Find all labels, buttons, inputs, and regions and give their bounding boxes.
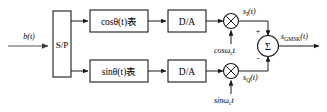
wire-si-to-summer (239, 21, 269, 36)
wire-sq-to-summer (239, 57, 269, 72)
sin-theta-table-block: sinθ(t)表 (90, 60, 148, 82)
sin-carrier-label: sinωct (214, 96, 234, 106)
multiplier-quadrature (224, 64, 239, 79)
summer-plus-sign: + (256, 27, 261, 36)
cos-carrier-label: cosωct (214, 46, 236, 56)
serial-to-parallel-block: S/P (53, 11, 71, 77)
sin-table-label: sinθ(t)表 (102, 66, 137, 78)
input-label: b(t) (23, 32, 35, 41)
cos-theta-table-block: cosθ(t)表 (90, 10, 148, 32)
summer-minus-sign: - (257, 54, 260, 63)
da-bottom-label: D/A (179, 67, 196, 77)
summing-junction: Σ (258, 36, 279, 57)
input-signal-group: b(t) (8, 32, 48, 46)
summer-sigma-symbol: Σ (265, 41, 271, 52)
gmsk-modulator-diagram: b(t) S/P cosθ(t)表 sinθ(t)表 D/A (0, 0, 327, 112)
signal-label-sq: sQ(t) (243, 73, 258, 83)
signal-label-si: sI(t) (243, 7, 256, 17)
da-converter-bottom-block: D/A (168, 60, 206, 82)
cos-table-label: cosθ(t)表 (101, 16, 137, 28)
da-converter-top-block: D/A (168, 10, 206, 32)
diagram-canvas: b(t) S/P cosθ(t)表 sinθ(t)表 D/A (0, 0, 327, 112)
da-top-label: D/A (179, 17, 196, 27)
multiplier-inphase (224, 14, 239, 29)
sp-block-label: S/P (56, 40, 69, 50)
signal-label-sgmsk: sGMSK(t) (281, 32, 308, 42)
